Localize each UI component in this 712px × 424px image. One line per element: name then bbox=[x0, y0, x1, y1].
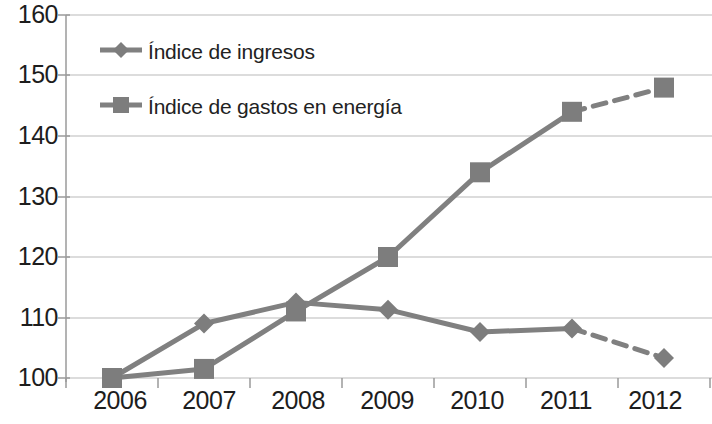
y-axis-ticks bbox=[58, 15, 70, 378]
series-segment bbox=[388, 172, 480, 257]
diamond-marker-icon bbox=[654, 348, 674, 368]
gridlines bbox=[66, 15, 712, 378]
diamond-marker-icon bbox=[113, 42, 129, 58]
series-segment bbox=[296, 257, 388, 311]
series-segment bbox=[480, 112, 572, 173]
diamond-marker-icon bbox=[470, 322, 490, 342]
chart-canvas bbox=[0, 0, 712, 424]
series-segment bbox=[572, 88, 664, 112]
series-segment bbox=[480, 328, 572, 332]
square-marker-icon bbox=[378, 247, 398, 267]
series-gastos bbox=[102, 78, 674, 388]
x-axis-ticks bbox=[66, 378, 710, 388]
series-segment bbox=[572, 328, 664, 358]
line-chart: 160 150 140 130 120 110 100 2006 2007 20… bbox=[0, 0, 712, 424]
series-segment bbox=[388, 310, 480, 332]
series-layer bbox=[102, 78, 674, 388]
square-marker-icon bbox=[470, 162, 490, 182]
diamond-marker-icon bbox=[562, 318, 582, 338]
legend-sample-ingresos bbox=[100, 42, 142, 58]
square-marker-icon bbox=[113, 97, 129, 113]
square-marker-icon bbox=[194, 359, 214, 379]
series-ingresos bbox=[102, 292, 674, 388]
square-marker-icon bbox=[102, 368, 122, 388]
legend-sample-gastos bbox=[100, 97, 142, 113]
square-marker-icon bbox=[286, 301, 306, 321]
square-marker-icon bbox=[654, 78, 674, 98]
diamond-marker-icon bbox=[378, 300, 398, 320]
square-marker-icon bbox=[562, 102, 582, 122]
